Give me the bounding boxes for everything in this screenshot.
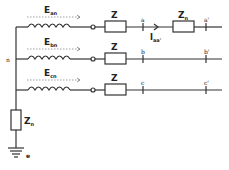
phase-b [16,53,222,64]
phase-a [16,21,222,32]
emf-a-label: Ean [44,5,58,16]
node-a-prime: a' [204,16,210,23]
node-c: c [141,79,145,86]
terminal-icon [91,57,95,61]
phase-c [16,84,222,95]
terminal-icon [91,88,95,92]
node-a: a [141,16,145,23]
node-b: b [141,48,145,55]
node-c-prime: c' [204,79,209,86]
neutral-impedance-box [11,110,21,130]
line-impedance-label: Zn [178,10,189,21]
coil-icon [28,24,70,27]
emf-c-label: Ecn [44,68,57,79]
ground-icon [8,148,24,157]
line-impedance-box [173,21,194,32]
terminal-icon [91,25,95,29]
emf-b-label: Ebn [44,37,58,48]
impedance-b-label: Z [111,42,118,52]
node-b-prime: b' [204,48,210,55]
impedance-box [105,84,126,95]
neutral-impedance-label: Zn [24,116,35,127]
current-label: Iaa' [150,33,162,43]
impedance-c-label: Z [111,73,118,83]
impedance-box [105,53,126,64]
impedance-a-label: Z [111,10,118,20]
ground-label: e [26,152,30,159]
coil-icon [28,56,70,59]
impedance-box [105,21,126,32]
neutral-label: n [6,56,10,63]
circuit-diagram: Ean Ebn Ecn Z Z Z Zn a a' b b' c c' Iaa'… [0,0,229,170]
coil-icon [28,87,70,90]
